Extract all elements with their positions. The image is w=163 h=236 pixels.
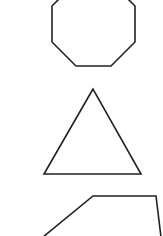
shapes-canvas	[0, 0, 163, 236]
trapezoid-shape	[43, 196, 161, 236]
triangle-shape	[44, 89, 141, 174]
octagon-shape	[52, 0, 135, 66]
